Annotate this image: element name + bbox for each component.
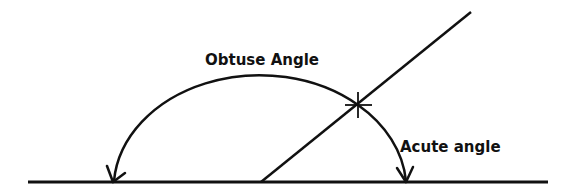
angle-diagram: Obtuse Angle Acute angle bbox=[0, 0, 578, 196]
angle-ray bbox=[261, 12, 471, 182]
obtuse-angle-label: Obtuse Angle bbox=[205, 51, 319, 69]
obtuse-arc bbox=[114, 75, 358, 181]
acute-angle-label: Acute angle bbox=[400, 138, 501, 156]
